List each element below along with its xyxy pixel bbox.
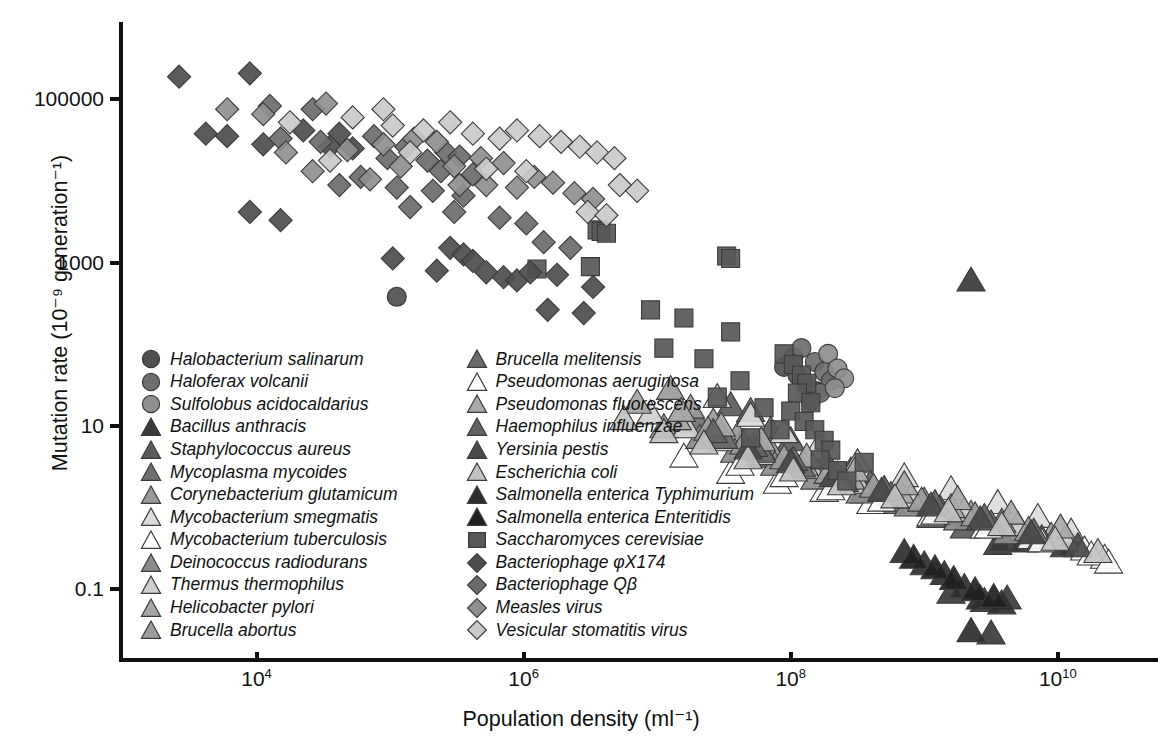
data-point xyxy=(541,171,564,194)
x-tick-label: 1010 xyxy=(1039,668,1077,689)
legend-item-label: Saccharomyces cerevisiae xyxy=(496,531,704,549)
data-point xyxy=(536,298,559,321)
data-point xyxy=(549,130,572,153)
legend-item[interactable]: Halobacterium salinarum xyxy=(140,348,398,371)
triangle-swatch xyxy=(140,416,162,438)
legend-item-label: Staphylococcus aureus xyxy=(170,441,351,459)
legend-item[interactable]: Mycobacterium tuberculosis xyxy=(140,529,398,552)
legend-item[interactable]: Haemophilus influenzae xyxy=(466,416,754,439)
legend-item[interactable]: Measles virus xyxy=(466,597,754,620)
y-tick-mark xyxy=(110,424,119,428)
legend-item-label: Mycoplasma mycoides xyxy=(170,464,347,482)
triangle-marker-icon xyxy=(466,393,488,415)
legend-item-label: Bacteriophage Qβ xyxy=(496,576,637,594)
data-point xyxy=(515,212,538,235)
triangle-swatch xyxy=(466,348,488,370)
legend-item[interactable]: Salmonella enterica Enteritidis xyxy=(466,506,754,529)
triangle-marker-icon xyxy=(140,439,162,461)
legend-item[interactable]: Yersinia pestis xyxy=(466,438,754,461)
data-point xyxy=(642,301,660,319)
legend-item[interactable]: Bacteriophage Qβ xyxy=(466,574,754,597)
diamond-swatch xyxy=(466,597,488,619)
diamond-swatch xyxy=(466,574,488,596)
legend-item[interactable]: Pseudomonas aeruginosa xyxy=(466,371,754,394)
data-point xyxy=(399,196,422,219)
legend-item[interactable]: Mycobacterium smegmatis xyxy=(140,506,398,529)
data-point xyxy=(563,182,586,205)
x-tick-label: 104 xyxy=(241,668,272,689)
y-tick-label: 0.1 xyxy=(75,578,104,599)
legend-item-label: Deinococcus radiodurans xyxy=(170,554,367,572)
legend-column-right: Brucella melitensisPseudomonas aeruginos… xyxy=(466,348,754,642)
diamond-marker-icon xyxy=(466,597,488,619)
triangle-marker-icon xyxy=(466,371,488,393)
legend-item[interactable]: Haloferax volcanii xyxy=(140,371,398,394)
data-point xyxy=(675,309,693,327)
data-point xyxy=(488,206,511,229)
data-point xyxy=(216,98,239,121)
triangle-marker-icon xyxy=(466,506,488,528)
y-axis-title: Mutation rate (10⁻⁹ generation⁻¹) xyxy=(47,103,73,523)
triangle-swatch xyxy=(140,439,162,461)
legend-item[interactable]: Corynebacterium glutamicum xyxy=(140,484,398,507)
diamond-marker-icon xyxy=(466,552,488,574)
data-point xyxy=(168,65,191,88)
legend-item[interactable]: Bacteriophage φX174 xyxy=(466,551,754,574)
legend-item-label: Salmonella enterica Typhimurium xyxy=(496,486,754,504)
legend-item[interactable]: Bacillus anthracis xyxy=(140,416,398,439)
triangle-swatch xyxy=(140,619,162,641)
legend-item-label: Thermus thermophilus xyxy=(170,576,344,594)
square-marker-icon xyxy=(466,529,488,551)
triangle-marker-icon xyxy=(466,484,488,506)
legend-column-left: Halobacterium salinarumHaloferax volcani… xyxy=(140,348,398,642)
y-tick-mark xyxy=(110,261,119,265)
triangle-swatch xyxy=(466,461,488,483)
legend-item[interactable]: Deinococcus radiodurans xyxy=(140,551,398,574)
triangle-marker-icon xyxy=(466,416,488,438)
y-tick-label: 10 xyxy=(81,415,104,436)
x-tick-label: 108 xyxy=(775,668,806,689)
data-point xyxy=(528,125,551,148)
legend-item[interactable]: Staphylococcus aureus xyxy=(140,438,398,461)
figure-root: 1000001000100.11041061081010 Mutation ra… xyxy=(0,0,1162,752)
legend-item[interactable]: Brucella melitensis xyxy=(466,348,754,371)
triangle-marker-icon xyxy=(140,529,162,551)
legend-item-label: Brucella abortus xyxy=(170,622,296,640)
data-point xyxy=(572,302,595,325)
legend-item[interactable]: Brucella abortus xyxy=(140,619,398,642)
data-point xyxy=(387,287,406,306)
legend-item[interactable]: Salmonella enterica Typhimurium xyxy=(466,484,754,507)
legend-item[interactable]: Vesicular stomatitis virus xyxy=(466,619,754,642)
data-point xyxy=(545,263,568,286)
legend-item[interactable]: Helicobacter pylori xyxy=(140,597,398,620)
legend-item-label: Haemophilus influenzae xyxy=(496,418,683,436)
legend-item-label: Measles virus xyxy=(496,599,603,617)
x-axis-line xyxy=(119,658,1158,662)
triangle-swatch xyxy=(140,484,162,506)
triangle-swatch xyxy=(466,371,488,393)
data-point xyxy=(381,247,404,270)
legend-item-label: Vesicular stomatitis virus xyxy=(496,622,688,640)
data-point xyxy=(957,618,985,642)
legend-item-label: Mycobacterium tuberculosis xyxy=(170,531,387,549)
legend-item[interactable]: Thermus thermophilus xyxy=(140,574,398,597)
data-point xyxy=(238,62,261,85)
legend-item[interactable]: Mycoplasma mycoides xyxy=(140,461,398,484)
circle-marker-icon xyxy=(140,348,162,370)
triangle-marker-icon xyxy=(140,619,162,641)
diamond-marker-icon xyxy=(466,574,488,596)
data-point xyxy=(328,173,351,196)
legend-item[interactable]: Saccharomyces cerevisiae xyxy=(466,529,754,552)
diamond-marker-icon xyxy=(466,619,488,641)
legend-item-label: Bacillus anthracis xyxy=(170,418,306,436)
data-point xyxy=(341,106,364,129)
legend-item[interactable]: Pseudomonas fluorescens xyxy=(466,393,754,416)
legend-item[interactable]: Sulfolobus acidocaldarius xyxy=(140,393,398,416)
data-point xyxy=(582,275,605,298)
legend-item-label: Helicobacter pylori xyxy=(170,599,314,617)
y-tick-mark xyxy=(110,587,119,591)
data-point xyxy=(722,249,740,267)
data-point xyxy=(957,267,985,291)
legend-item[interactable]: Escherichia coli xyxy=(466,461,754,484)
triangle-marker-icon xyxy=(140,597,162,619)
